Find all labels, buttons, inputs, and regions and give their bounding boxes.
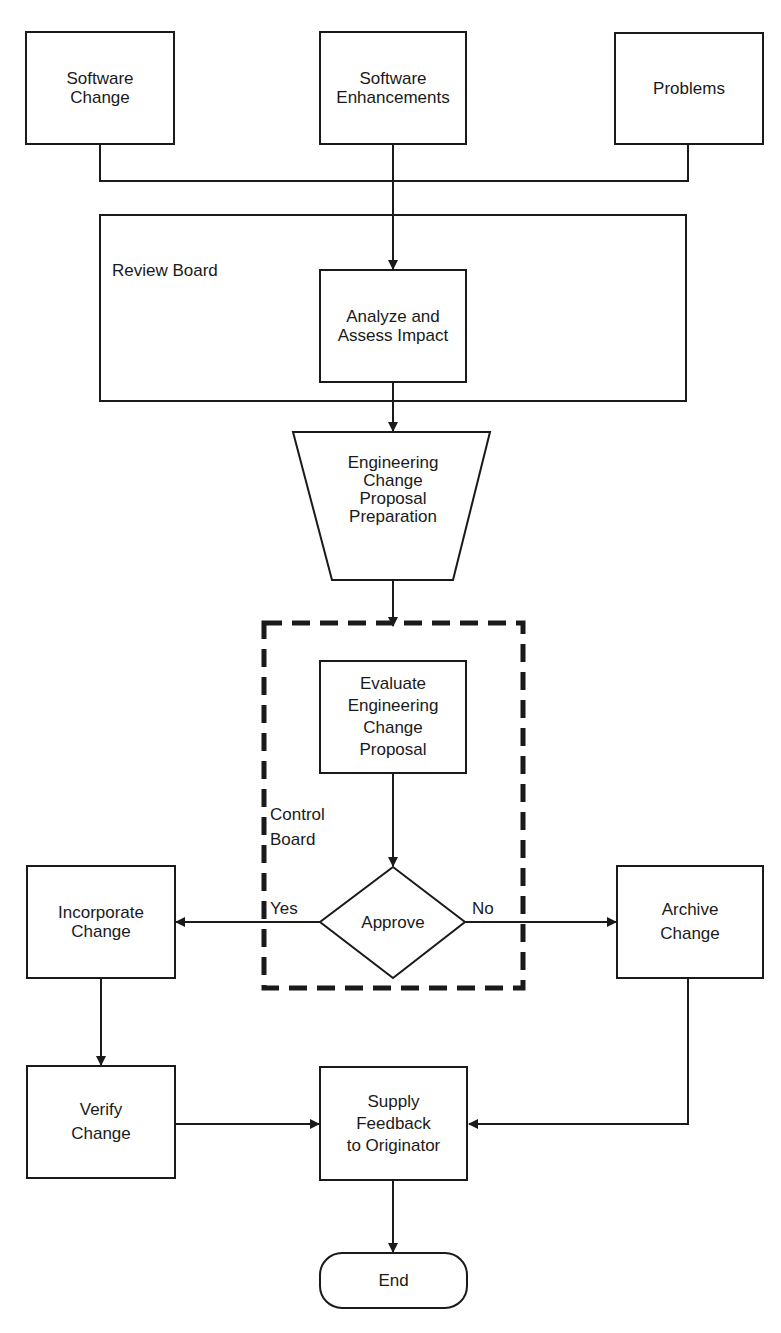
node-end: End: [320, 1253, 467, 1308]
edge-label-yes: Yes: [270, 898, 298, 919]
node-problems: Problems: [615, 33, 763, 144]
node-evaluate: Evaluate Engineering Change Proposal: [320, 661, 466, 773]
node-analyze: Analyze and Assess Impact: [320, 270, 466, 382]
node-approve: Approve: [320, 867, 466, 978]
node-ecp-prep: Engineering Change Proposal Preparation: [310, 445, 476, 535]
edge-label-no: No: [472, 898, 494, 919]
node-incorporate: Incorporate Change: [27, 866, 175, 978]
group-control-board-label: Control Board: [270, 802, 325, 852]
node-archive: Archive Change: [617, 866, 763, 978]
group-review-board-label: Review Board: [112, 260, 218, 281]
node-software-enhancements: Software Enhancements: [320, 32, 466, 144]
node-software-change: Software Change: [26, 32, 174, 144]
node-verify: Verify Change: [27, 1066, 175, 1178]
node-feedback: Supply Feedback to Originator: [320, 1067, 467, 1180]
edge-archive-to-feedback: [469, 978, 688, 1124]
